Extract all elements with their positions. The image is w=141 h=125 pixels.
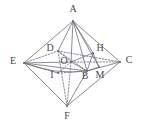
vertex-label-e: E (10, 56, 16, 66)
vertex-label-h: H (96, 43, 103, 53)
vertex-label-m: M (96, 70, 105, 80)
vertex-point-i (57, 72, 59, 74)
vertex-point-d (57, 50, 59, 52)
vertex-point-m (98, 66, 100, 68)
vertex-point-c (119, 61, 121, 63)
vertex-label-i: I (50, 70, 53, 80)
edge-AM (73, 21, 99, 67)
vertex-point-a (72, 20, 74, 22)
vertex-point-o (70, 61, 72, 63)
vertex-dot-group (23, 20, 121, 107)
vertex-point-e (23, 62, 25, 64)
geometry-diagram-svg (0, 0, 141, 125)
edge-AB (73, 21, 87, 71)
vertex-label-a: A (69, 4, 76, 14)
vertex-point-h (92, 52, 94, 54)
edge-HM (93, 53, 99, 67)
solid-edge-group (24, 21, 120, 106)
vertex-label-c: C (126, 55, 133, 65)
edge-AD (58, 21, 73, 51)
geometry-figure: AECFDBOHIM (0, 0, 141, 125)
vertex-label-f: F (64, 111, 70, 121)
vertex-label-o: O (60, 56, 67, 66)
vertex-label-b: B (82, 71, 89, 81)
edge-AO (71, 21, 73, 62)
vertex-label-d: D (46, 43, 53, 53)
vertex-point-f (66, 105, 68, 107)
